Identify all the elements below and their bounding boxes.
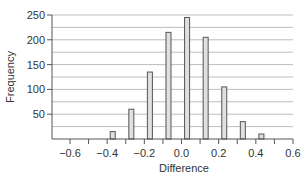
x-tick-label: 0.2 [211, 147, 226, 159]
grid-lines [52, 15, 293, 127]
histogram-bar [222, 87, 227, 139]
x-tick-label: 0.4 [248, 147, 263, 159]
histogram-bar [147, 72, 152, 139]
histogram-bar [110, 132, 115, 139]
y-tick-label: 50 [33, 108, 45, 120]
histogram-bar [185, 17, 190, 139]
histogram-bar [129, 109, 134, 139]
x-tick-label: 0.6 [285, 147, 300, 159]
y-axis-label: Frequency [4, 51, 16, 103]
histogram-bar [259, 134, 264, 139]
x-tick-label: −0.2 [133, 147, 155, 159]
y-axis-ticks: 50100150200250 [27, 9, 52, 120]
x-tick-label: −0.6 [59, 147, 81, 159]
bars [110, 17, 264, 139]
y-tick-label: 150 [27, 59, 45, 71]
y-tick-label: 200 [27, 34, 45, 46]
histogram-bar [166, 32, 171, 139]
x-tick-label: 0.0 [174, 147, 189, 159]
x-axis-label: Difference [159, 162, 209, 174]
y-tick-label: 250 [27, 9, 45, 21]
x-tick-label: −0.4 [96, 147, 118, 159]
x-axis-ticks: −0.6−0.4−0.20.00.20.40.6 [59, 139, 301, 159]
histogram-bar [203, 37, 208, 139]
histogram-bar [240, 122, 245, 139]
histogram-chart: 50100150200250 −0.6−0.4−0.20.00.20.40.6 … [0, 0, 308, 177]
y-tick-label: 100 [27, 83, 45, 95]
